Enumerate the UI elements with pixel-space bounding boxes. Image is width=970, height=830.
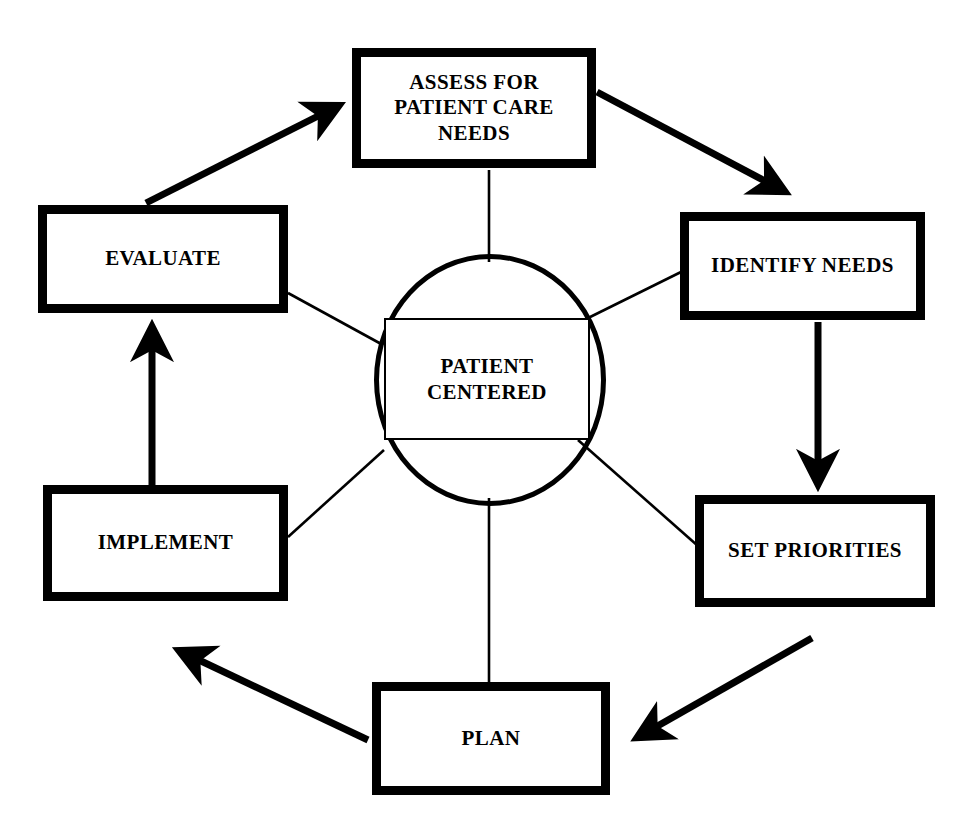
node-assess[interactable]: ASSESS FORPATIENT CARENEEDS [352, 48, 596, 168]
arrow-priorities-to-plan [640, 638, 812, 736]
node-assess-label: ASSESS FORPATIENT CARENEEDS [394, 70, 553, 147]
hub-label-line1: PATIENT [440, 354, 533, 378]
hub-label-box: PATIENTCENTERED [384, 318, 590, 440]
node-assess-line2: PATIENT CARE [394, 95, 553, 119]
node-assess-inner: ASSESS FORPATIENT CARENEEDS [359, 55, 589, 161]
node-identify-needs-label: IDENTIFY NEEDS [711, 253, 894, 279]
arrow-evaluate-to-assess [146, 107, 336, 203]
node-evaluate-inner: EVALUATE [45, 212, 281, 306]
node-plan-label: PLAN [462, 726, 521, 752]
spoke-implement-hub [288, 450, 384, 537]
node-assess-line3: NEEDS [438, 121, 510, 145]
hub-label: PATIENTCENTERED [427, 353, 547, 406]
node-identify-needs[interactable]: IDENTIFY NEEDS [680, 212, 925, 320]
patient-centered-hub: PATIENTCENTERED [374, 254, 606, 506]
node-evaluate[interactable]: EVALUATE [38, 205, 288, 313]
arrow-plan-to-implement [182, 652, 368, 740]
node-implement-label: IMPLEMENT [98, 530, 233, 556]
node-set-priorities[interactable]: SET PRIORITIES [695, 495, 935, 607]
node-set-priorities-inner: SET PRIORITIES [702, 502, 928, 600]
spoke-evaluate-hub [288, 293, 383, 345]
node-evaluate-label: EVALUATE [105, 246, 221, 272]
node-identify-needs-inner: IDENTIFY NEEDS [687, 219, 918, 313]
diagram-canvas: PATIENTCENTERED ASSESS FORPATIENT CARENE… [0, 0, 970, 830]
node-implement-inner: IMPLEMENT [50, 492, 281, 594]
hub-label-line2: CENTERED [427, 380, 547, 404]
node-plan[interactable]: PLAN [372, 682, 610, 795]
node-assess-line1: ASSESS FOR [409, 70, 538, 94]
node-plan-inner: PLAN [379, 689, 603, 788]
node-implement[interactable]: IMPLEMENT [43, 485, 288, 601]
node-set-priorities-label: SET PRIORITIES [728, 538, 902, 564]
arrow-assess-to-identify [597, 92, 782, 190]
